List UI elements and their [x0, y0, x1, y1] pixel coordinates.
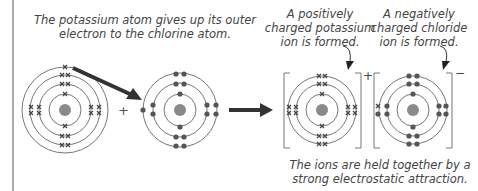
reaction-arrow	[229, 103, 273, 117]
positive-charge: +	[363, 69, 373, 83]
potassium-ion: +	[284, 69, 373, 148]
k-ion-caption: A positively charged potassium ion is fo…	[260, 7, 380, 49]
transfer-caption: The potassium atom gives up its outer el…	[30, 13, 260, 41]
plus-sign: +	[118, 103, 129, 118]
bond-caption: The ions are held together by a strong e…	[285, 158, 475, 186]
electron-transfer-arrow	[73, 68, 142, 100]
cl-ion-caption: A negatively charged chloride ion is for…	[365, 7, 473, 49]
chlorine-nucleus	[174, 104, 186, 116]
potassium-nucleus	[59, 104, 71, 116]
chloride-ion: −	[374, 66, 465, 148]
chlorine-atom	[140, 71, 218, 148]
negative-charge: −	[455, 66, 465, 80]
ionic-bonding-diagram: +	[0, 0, 478, 191]
